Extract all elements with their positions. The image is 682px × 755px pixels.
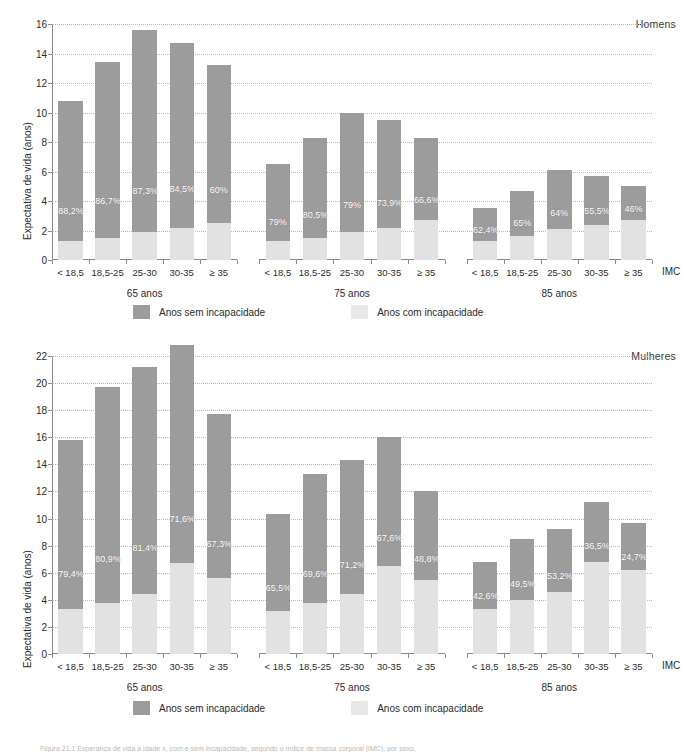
- bar-stack[interactable]: 46%: [621, 186, 645, 260]
- y-tick-label: 12: [36, 486, 47, 497]
- bar-stack[interactable]: 65,5%: [266, 514, 290, 654]
- bar-stack[interactable]: 62,4%: [473, 208, 497, 260]
- bar-stack[interactable]: 81,4%: [132, 367, 156, 654]
- bar-segment-sem-incapacidade[interactable]: 88,2%: [58, 101, 82, 241]
- bar-segment-com-incapacidade[interactable]: [547, 592, 571, 654]
- bar-segment-com-incapacidade[interactable]: [58, 241, 82, 260]
- bar-value-label: 55,5%: [584, 206, 608, 216]
- bar-segment-com-incapacidade[interactable]: [303, 603, 327, 654]
- bar-stack[interactable]: 66,6%: [414, 138, 438, 260]
- bar-segment-sem-incapacidade[interactable]: 46%: [621, 186, 645, 220]
- bar-stack[interactable]: 55,5%: [584, 176, 608, 260]
- bar-segment-sem-incapacidade[interactable]: 71,6%: [170, 345, 194, 563]
- bar-stack[interactable]: 86,7%: [95, 62, 119, 260]
- bar-segment-sem-incapacidade[interactable]: 79,4%: [58, 440, 82, 609]
- x-tick-mark: [467, 260, 468, 264]
- bar-value-label: 46%: [621, 204, 645, 214]
- bar-segment-com-incapacidade[interactable]: [473, 609, 497, 654]
- bar-segment-sem-incapacidade[interactable]: 65%: [510, 191, 534, 237]
- bar-segment-sem-incapacidade[interactable]: 66,6%: [414, 138, 438, 221]
- y-tick-label: 18: [36, 405, 47, 416]
- bar-stack[interactable]: 84,5%: [170, 43, 194, 260]
- bar-segment-sem-incapacidade[interactable]: 53,2%: [547, 529, 571, 591]
- bar-segment-com-incapacidade[interactable]: [621, 220, 645, 260]
- bar-segment-com-incapacidade[interactable]: [621, 570, 645, 654]
- bar-segment-com-incapacidade[interactable]: [377, 228, 401, 260]
- bar-stack[interactable]: 49,5%: [510, 539, 534, 654]
- bar-stack[interactable]: 67,6%: [377, 437, 401, 654]
- bar-segment-sem-incapacidade[interactable]: 73,9%: [377, 120, 401, 228]
- bar-segment-com-incapacidade[interactable]: [132, 594, 156, 654]
- bar-stack[interactable]: 48,8%: [414, 491, 438, 654]
- bar-stack[interactable]: 80,9%: [95, 387, 119, 654]
- bar-stack[interactable]: 60%: [207, 65, 231, 260]
- bar-segment-com-incapacidade[interactable]: [414, 580, 438, 655]
- bar-segment-sem-incapacidade[interactable]: 67,6%: [377, 437, 401, 566]
- bar-stack[interactable]: 80,5%: [303, 138, 327, 260]
- bar-segment-sem-incapacidade[interactable]: 80,5%: [303, 138, 327, 238]
- bar-segment-com-incapacidade[interactable]: [266, 611, 290, 654]
- bar-stack[interactable]: 69,6%: [303, 474, 327, 654]
- bar-stack[interactable]: 79%: [266, 164, 290, 260]
- bar-segment-sem-incapacidade[interactable]: 49,5%: [510, 539, 534, 600]
- bar-stack[interactable]: 87,3%: [132, 30, 156, 260]
- bar-stack[interactable]: 67,3%: [207, 414, 231, 654]
- bar-stack[interactable]: 24,7%: [621, 523, 645, 654]
- bar-segment-com-incapacidade[interactable]: [510, 236, 534, 260]
- bar-segment-sem-incapacidade[interactable]: 62,4%: [473, 208, 497, 240]
- bar-stack[interactable]: 64%: [547, 170, 571, 260]
- bar-segment-com-incapacidade[interactable]: [132, 232, 156, 260]
- bar-segment-com-incapacidade[interactable]: [95, 603, 119, 654]
- bar-segment-com-incapacidade[interactable]: [95, 238, 119, 260]
- bar-stack[interactable]: 71,6%: [170, 345, 194, 654]
- bar-stack[interactable]: 53,2%: [547, 529, 571, 654]
- bar-stack[interactable]: 42,6%: [473, 562, 497, 654]
- bar-stack[interactable]: 88,2%: [58, 101, 82, 260]
- bar-segment-com-incapacidade[interactable]: [547, 229, 571, 260]
- bar-segment-com-incapacidade[interactable]: [340, 594, 364, 654]
- bar-segment-sem-incapacidade[interactable]: 64%: [547, 170, 571, 229]
- bar-segment-sem-incapacidade[interactable]: 42,6%: [473, 562, 497, 609]
- x-tick-mark: [296, 260, 297, 264]
- bar-segment-com-incapacidade[interactable]: [170, 228, 194, 260]
- x-tick-mark: [652, 654, 653, 658]
- bar-segment-com-incapacidade[interactable]: [303, 238, 327, 260]
- bar-stack[interactable]: 71,2%: [340, 460, 364, 654]
- bar-segment-sem-incapacidade[interactable]: 79%: [340, 113, 364, 232]
- bar-segment-com-incapacidade[interactable]: [207, 578, 231, 654]
- bar-stack[interactable]: 36,5%: [584, 502, 608, 654]
- bar-segment-sem-incapacidade[interactable]: 80,9%: [95, 387, 119, 602]
- bar-segment-com-incapacidade[interactable]: [473, 241, 497, 260]
- bar-segment-com-incapacidade[interactable]: [170, 563, 194, 654]
- bar-segment-com-incapacidade[interactable]: [510, 600, 534, 654]
- bar-segment-sem-incapacidade[interactable]: 48,8%: [414, 491, 438, 579]
- bar-segment-sem-incapacidade[interactable]: 81,4%: [132, 367, 156, 595]
- bar-segment-sem-incapacidade[interactable]: 86,7%: [95, 62, 119, 238]
- bar-stack[interactable]: 79%: [340, 113, 364, 261]
- bar-segment-com-incapacidade[interactable]: [266, 241, 290, 260]
- bar-segment-com-incapacidade[interactable]: [377, 566, 401, 654]
- bar-segment-sem-incapacidade[interactable]: 36,5%: [584, 502, 608, 562]
- bar-segment-sem-incapacidade[interactable]: 69,6%: [303, 474, 327, 603]
- bar-segment-com-incapacidade[interactable]: [207, 223, 231, 260]
- bar-segment-com-incapacidade[interactable]: [584, 225, 608, 260]
- y-tick-label: 2: [41, 225, 47, 236]
- bar-segment-sem-incapacidade[interactable]: 67,3%: [207, 414, 231, 578]
- x-tick-mark: [52, 260, 53, 264]
- bar-segment-sem-incapacidade[interactable]: 65,5%: [266, 514, 290, 610]
- bar-segment-sem-incapacidade[interactable]: 87,3%: [132, 30, 156, 232]
- bar-segment-com-incapacidade[interactable]: [584, 562, 608, 654]
- bar-segment-sem-incapacidade[interactable]: 71,2%: [340, 460, 364, 594]
- legend-item-com: Anos com incapacidade: [351, 305, 483, 319]
- bar-segment-com-incapacidade[interactable]: [340, 232, 364, 260]
- bar-stack[interactable]: 73,9%: [377, 120, 401, 260]
- bar-segment-sem-incapacidade[interactable]: 60%: [207, 65, 231, 223]
- bar-stack[interactable]: 79,4%: [58, 440, 82, 654]
- bar-stack[interactable]: 65%: [510, 191, 534, 260]
- bar-segment-sem-incapacidade[interactable]: 55,5%: [584, 176, 608, 225]
- bar-segment-com-incapacidade[interactable]: [414, 220, 438, 260]
- bar-segment-com-incapacidade[interactable]: [58, 609, 82, 654]
- bar-segment-sem-incapacidade[interactable]: 79%: [266, 164, 290, 241]
- bar-segment-sem-incapacidade[interactable]: 84,5%: [170, 43, 194, 227]
- bar-segment-sem-incapacidade[interactable]: 24,7%: [621, 523, 645, 570]
